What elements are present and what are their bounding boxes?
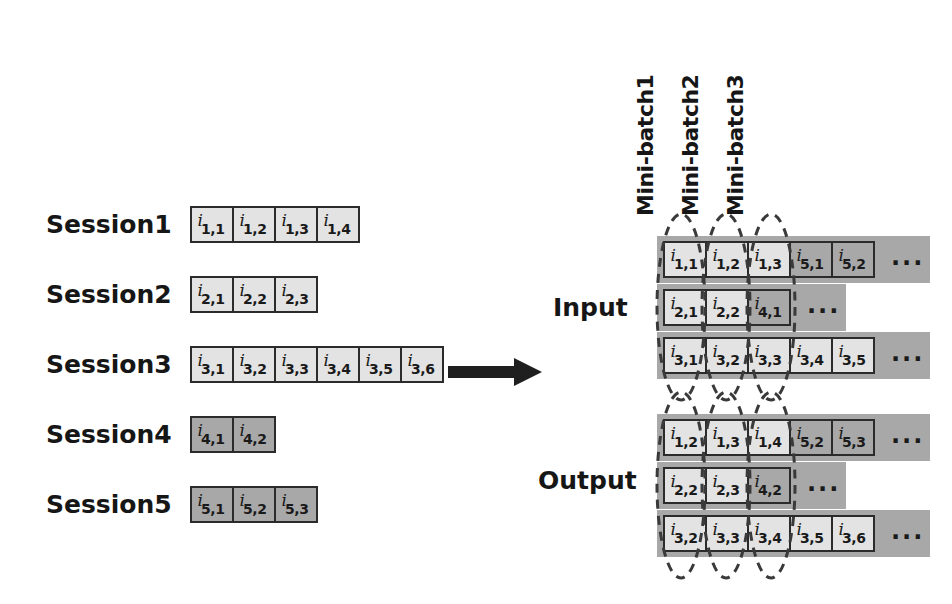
cell-subscript: 5,3 [285, 502, 309, 516]
output-cell-1-4: i1,4 [747, 419, 791, 456]
session2-cell-2-2: i2,2 [232, 276, 276, 313]
session3-cell-3-4: i3,4 [316, 346, 360, 383]
cell-subscript: 2,2 [674, 483, 698, 497]
cell-subscript: 5,3 [842, 435, 866, 449]
output-cell-2-2: i2,2 [663, 467, 707, 504]
output-row-1: i1,2i1,3i1,4i5,2i5,3... [657, 414, 930, 461]
cell-subscript: 2,1 [201, 292, 225, 306]
mini-batch-label-3: Mini-batch3 [723, 75, 748, 216]
session3-cell-3-2: i3,2 [232, 346, 276, 383]
session-row-5: Session5i5,1i5,2i5,3 [46, 486, 318, 523]
cell-subscript: 4,1 [758, 305, 782, 319]
cell-subscript: 3,2 [243, 362, 267, 376]
output-row-1-cells: i1,2i1,3i1,4i5,2i5,3 [663, 419, 875, 456]
output-row-3-cells: i3,2i3,3i3,4i3,5i3,6 [663, 515, 875, 552]
cell-subscript: 1,4 [327, 222, 351, 236]
input-cell-3-5: i3,5 [831, 337, 875, 374]
session5-cell-5-1: i5,1 [190, 486, 234, 523]
session3-cell-3-3: i3,3 [274, 346, 318, 383]
input-row-3-ellipsis: ... [891, 339, 924, 367]
cell-subscript: 3,1 [674, 353, 698, 367]
cell-subscript: 1,2 [716, 257, 740, 271]
session-strip-5: i5,1i5,2i5,3 [190, 486, 318, 523]
cell-subscript: 5,2 [243, 502, 267, 516]
input-row-3-cells: i3,1i3,2i3,3i3,4i3,5 [663, 337, 875, 374]
session3-cell-3-5: i3,5 [358, 346, 402, 383]
session4-cell-4-2: i4,2 [232, 416, 276, 453]
cell-subscript: 3,2 [674, 531, 698, 545]
output-cell-1-2: i1,2 [663, 419, 707, 456]
input-cell-3-4: i3,4 [789, 337, 833, 374]
cell-subscript: 3,3 [716, 531, 740, 545]
input-cell-2-2: i2,2 [705, 289, 749, 326]
input-cell-3-3: i3,3 [747, 337, 791, 374]
cell-subscript: 2,3 [285, 292, 309, 306]
output-block: i1,2i1,3i1,4i5,2i5,3...i2,2i2,3i4,2...i3… [657, 414, 930, 558]
cell-subscript: 3,3 [285, 362, 309, 376]
input-row-3: i3,1i3,2i3,3i3,4i3,5... [657, 332, 930, 379]
input-row-2-ellipsis: ... [807, 291, 840, 319]
cell-subscript: 3,4 [758, 531, 782, 545]
session-strip-2: i2,1i2,2i2,3 [190, 276, 318, 313]
output-cell-3-5: i3,5 [789, 515, 833, 552]
session1-cell-1-4: i1,4 [316, 206, 360, 243]
session1-cell-1-3: i1,3 [274, 206, 318, 243]
cell-subscript: 3,5 [369, 362, 393, 376]
cell-subscript: 2,3 [716, 483, 740, 497]
input-row-1-cells: i1,1i1,2i1,3i5,1i5,2 [663, 241, 875, 278]
output-row-3: i3,2i3,3i3,4i3,5i3,6... [657, 510, 930, 557]
output-cell-3-6: i3,6 [831, 515, 875, 552]
cell-subscript: 3,6 [411, 362, 435, 376]
cell-subscript: 3,1 [201, 362, 225, 376]
mini-batch-label-2: Mini-batch2 [678, 75, 703, 216]
cell-subscript: 3,5 [800, 531, 824, 545]
output-cell-5-2: i5,2 [789, 419, 833, 456]
cell-subscript: 3,6 [842, 531, 866, 545]
cell-subscript: 3,3 [758, 353, 782, 367]
cell-subscript: 1,3 [758, 257, 782, 271]
output-row-1-ellipsis: ... [891, 421, 924, 449]
output-row-3-ellipsis: ... [891, 517, 924, 545]
output-cell-3-2: i3,2 [663, 515, 707, 552]
input-cell-1-2: i1,2 [705, 241, 749, 278]
input-row-1-ellipsis: ... [891, 243, 924, 271]
cell-subscript: 5,2 [800, 435, 824, 449]
output-label: Output [538, 466, 637, 495]
cell-subscript: 5,2 [842, 257, 866, 271]
output-cell-1-3: i1,3 [705, 419, 749, 456]
mini-batch-label-1: Mini-batch1 [633, 75, 658, 216]
input-cell-2-1: i2,1 [663, 289, 707, 326]
cell-subscript: 1,4 [758, 435, 782, 449]
output-cell-5-3: i5,3 [831, 419, 875, 456]
cell-subscript: 4,2 [758, 483, 782, 497]
input-cell-3-1: i3,1 [663, 337, 707, 374]
input-cell-1-3: i1,3 [747, 241, 791, 278]
cell-subscript: 2,2 [243, 292, 267, 306]
cell-subscript: 3,5 [842, 353, 866, 367]
input-row-2-cells: i2,1i2,2i4,1 [663, 289, 791, 326]
input-block: i1,1i1,2i1,3i5,1i5,2...i2,1i2,2i4,1...i3… [657, 236, 930, 380]
cell-subscript: 4,1 [201, 432, 225, 446]
session3-cell-3-6: i3,6 [400, 346, 444, 383]
cell-subscript: 1,2 [243, 222, 267, 236]
session-row-2: Session2i2,1i2,2i2,3 [46, 276, 318, 313]
cell-subscript: 1,3 [716, 435, 740, 449]
session-label-1: Session1 [46, 210, 178, 239]
session-strip-1: i1,1i1,2i1,3i1,4 [190, 206, 360, 243]
session-strip-4: i4,1i4,2 [190, 416, 276, 453]
session1-cell-1-1: i1,1 [190, 206, 234, 243]
session3-cell-3-1: i3,1 [190, 346, 234, 383]
input-row-1: i1,1i1,2i1,3i5,1i5,2... [657, 236, 930, 283]
session2-cell-2-1: i2,1 [190, 276, 234, 313]
session-row-1: Session1i1,1i1,2i1,3i1,4 [46, 206, 360, 243]
transform-arrow-icon [448, 356, 544, 388]
cell-subscript: 1,2 [674, 435, 698, 449]
output-cell-4-2: i4,2 [747, 467, 791, 504]
session-label-4: Session4 [46, 420, 178, 449]
output-cell-3-3: i3,3 [705, 515, 749, 552]
cell-subscript: 3,2 [716, 353, 740, 367]
input-cell-3-2: i3,2 [705, 337, 749, 374]
output-row-2: i2,2i2,3i4,2... [657, 462, 846, 509]
session-row-4: Session4i4,1i4,2 [46, 416, 276, 453]
cell-subscript: 3,4 [327, 362, 351, 376]
